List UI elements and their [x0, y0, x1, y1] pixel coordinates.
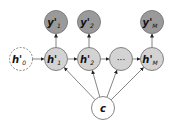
node-y2: y'2: [78, 11, 101, 34]
node-label: ···: [117, 55, 126, 65]
graphical-model-diagram: h'0h'1h'2···h'My'1y'2y'Mc: [0, 0, 173, 131]
node-c: c: [92, 97, 115, 120]
nodes: h'0h'1h'2···h'My'1y'2y'Mc: [10, 11, 164, 120]
edge-c-hdots: [107, 70, 117, 97]
edge-c-h1: [64, 68, 95, 100]
node-hdots: ···: [110, 48, 133, 71]
edge-c-h2: [92, 71, 100, 97]
node-y1: y'1: [45, 11, 68, 34]
node-h1: h'1: [45, 48, 68, 71]
node-label: c: [100, 103, 106, 114]
node-h2: h'2: [78, 48, 101, 71]
node-h0: h'0: [10, 48, 33, 71]
node-hM: h'M: [141, 48, 164, 71]
node-yM: y'M: [141, 11, 164, 34]
